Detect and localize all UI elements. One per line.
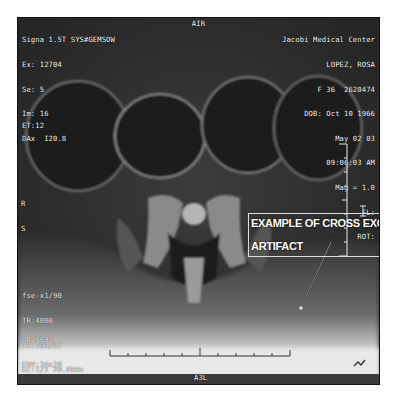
study-time: 09:06:03 AM bbox=[282, 159, 375, 167]
side-markers: R S bbox=[21, 184, 39, 250]
image-number: Im: 16 bbox=[22, 110, 115, 118]
scanner-info: Signa 1.5T SYS#GEMSOW Ex: 12704 Se: 5 Im… bbox=[22, 20, 115, 159]
study-date: May 02 03 bbox=[282, 135, 375, 143]
annotation-line-1: EXAMPLE OF CROSS EXC bbox=[251, 217, 379, 229]
patient-name: LOPEZ, ROSA bbox=[282, 61, 375, 69]
institution-name: Jacobi Medical Center bbox=[282, 36, 375, 44]
exam-number: Ex: 12704 bbox=[22, 61, 115, 69]
series-number: Se: 5 bbox=[22, 86, 115, 94]
scanner-model: Signa 1.5T SYS#GEMSOW bbox=[22, 36, 115, 44]
scan-parameters: UBLS695 FOV:20x20 4.0thk/1.0sp 20/03:26 … bbox=[22, 320, 115, 384]
pulse-sequence: fse-x1/90 bbox=[22, 292, 84, 300]
echo-train-label: ET:12 bbox=[22, 122, 44, 130]
magnification: Mag = 1.0 bbox=[282, 184, 375, 192]
side-marker-s: S bbox=[21, 225, 39, 233]
field-of-view: FOV:20x20 bbox=[22, 361, 115, 369]
slice-position: DAx I20.8 bbox=[22, 135, 115, 143]
mri-viewport[interactable]: Signa 1.5T SYS#GEMSOW Ex: 12704 Se: 5 Im… bbox=[18, 18, 379, 384]
patient-sex-age-id: F 36 2620474 bbox=[282, 86, 375, 94]
annotation-line-2: ARTIFACT bbox=[251, 240, 303, 252]
anatomical-orientation-top: AIR bbox=[192, 20, 205, 28]
anatomical-orientation-bottom: A3L bbox=[194, 374, 207, 382]
patient-dob: DOB: Oct 10 1966 bbox=[282, 110, 375, 118]
side-marker-r: R bbox=[21, 200, 39, 208]
artifact-annotation[interactable]: EXAMPLE OF CROSS EXC ARTIFACT bbox=[248, 213, 379, 257]
coil-name: UBLS695 bbox=[22, 336, 115, 344]
